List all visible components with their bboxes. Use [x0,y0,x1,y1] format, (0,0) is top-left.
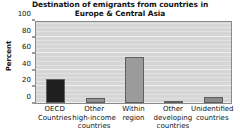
chart-title-line-1: Destination of emigrants from countries … [0,0,240,9]
bar [46,79,65,103]
bar-chart: Destination of emigrants from countries … [0,0,240,140]
bar [164,101,183,103]
bar [204,97,223,103]
bar-series [36,22,231,103]
y-axis-tick-label: 20 [22,77,31,84]
y-axis-tick-label: 40 [22,60,31,67]
y-axis-tick-label: 80 [22,27,31,34]
x-axis-tick-label-line: countries [186,114,239,123]
plot-area [35,21,232,104]
chart-title: Destination of emigrants from countries … [0,0,240,18]
x-axis-tick-label-line: Unidentified [186,105,239,114]
y-axis-tick-label: 0 [27,94,31,101]
chart-title-line-2: Europe & Central Asia [0,9,240,18]
x-axis-tick-label-line: countries [67,122,120,131]
bar [86,98,105,103]
x-axis-tick-label-line: countries [146,122,199,131]
y-axis-ticks: 020406080100 [0,21,35,104]
x-axis-tick-label: Unidentifiedcountries [186,105,239,122]
x-axis-labels: OECDCountriesOtherhigh-incomecountriesWi… [35,105,232,140]
y-axis-tick-label: 60 [22,44,31,51]
y-axis-tick-label: 100 [18,11,31,18]
bar [125,57,144,103]
